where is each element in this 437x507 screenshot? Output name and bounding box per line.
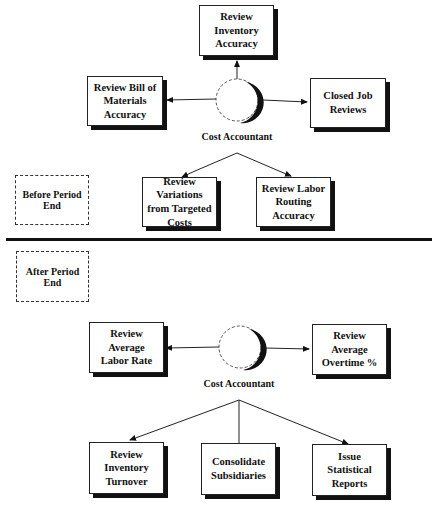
section-label: After Period End: [17, 266, 88, 288]
diagram-canvas: Review Inventory Accuracy Review Bill of…: [0, 0, 437, 507]
task-review-average-labor-rate: Review Average Labor Rate: [89, 322, 164, 373]
period-divider: [6, 238, 432, 241]
actor-label-bottom: Cost Accountant: [179, 378, 299, 389]
task-review-variations: Review Variations from Targeted Costs: [142, 177, 217, 227]
task-review-labor-routing: Review Labor Routing Accuracy: [256, 177, 331, 227]
actor-label-top: Cost Accountant: [177, 131, 297, 142]
task-label: Review Variations from Targeted Costs: [147, 175, 212, 230]
task-review-bom-accuracy: Review Bill of Materials Accuracy: [87, 76, 163, 126]
section-after-period-end: After Period End: [16, 251, 89, 302]
task-label: Consolidate Subsidiaries: [206, 455, 271, 482]
task-label: Issue Statistical Reports: [317, 450, 382, 491]
task-review-inventory-turnover: Review Inventory Turnover: [89, 442, 164, 494]
section-label: Before Period End: [16, 189, 88, 211]
task-review-average-overtime: Review Average Overtime %: [312, 324, 387, 375]
task-label: Review Inventory Turnover: [94, 448, 159, 489]
task-label: Review Inventory Accuracy: [204, 10, 269, 51]
actor-circle-bottom: [219, 326, 267, 370]
task-label: Review Average Overtime %: [317, 329, 382, 370]
task-review-inventory-accuracy: Review Inventory Accuracy: [199, 5, 274, 56]
section-before-period-end: Before Period End: [15, 175, 89, 225]
task-label: Review Average Labor Rate: [94, 327, 159, 368]
task-label: Closed Job Reviews: [315, 89, 381, 116]
task-consolidate-subsidiaries: Consolidate Subsidiaries: [201, 443, 276, 495]
task-label: Review Labor Routing Accuracy: [261, 182, 326, 223]
task-label: Review Bill of Materials Accuracy: [92, 81, 158, 122]
task-closed-job-reviews: Closed Job Reviews: [310, 78, 386, 128]
actor-circle-top: [216, 79, 264, 123]
task-issue-statistical-reports: Issue Statistical Reports: [312, 444, 387, 496]
